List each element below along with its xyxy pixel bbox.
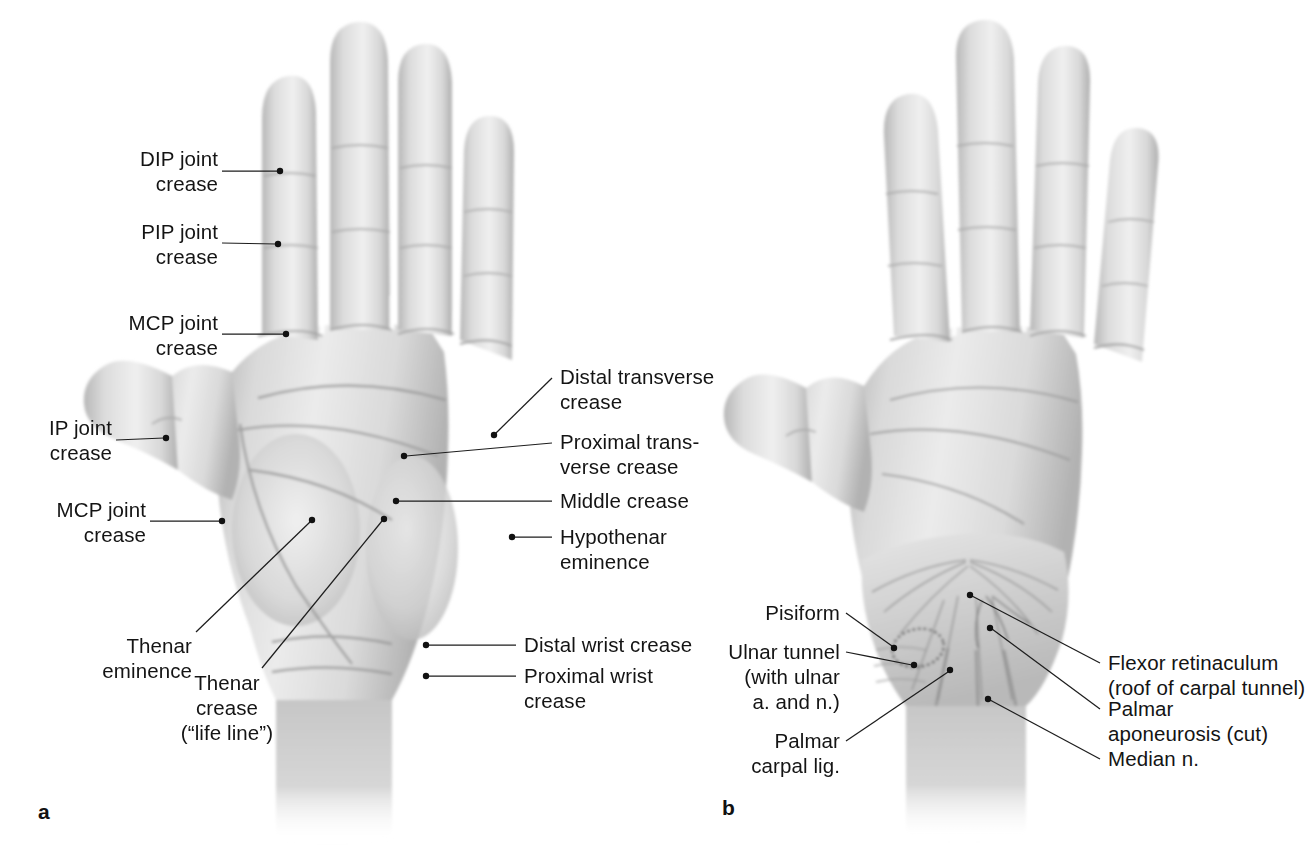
label-pisiform: Pisiform — [640, 600, 840, 625]
label-mcp-joint-crease-thumb: MCP joint crease — [0, 497, 146, 547]
label-proximal-transverse-crease: Proximal trans- verse crease — [560, 429, 780, 479]
label-ulnar-tunnel: Ulnar tunnel (with ulnar a. and n.) — [620, 639, 840, 714]
label-distal-transverse-crease: Distal transverse crease — [560, 364, 780, 414]
label-palmar-carpal-lig: Palmar carpal lig. — [640, 728, 840, 778]
label-median-nerve: Median n. — [1108, 746, 1315, 771]
label-middle-crease: Middle crease — [560, 488, 780, 513]
panel-b-hand — [724, 20, 1159, 841]
label-ip-joint-crease: IP joint crease — [0, 415, 112, 465]
label-hypothenar-eminence: Hypothenar eminence — [560, 524, 780, 574]
panel-letter-b: b — [722, 796, 735, 820]
label-flexor-retinaculum: Flexor retinaculum (roof of carpal tunne… — [1108, 650, 1315, 700]
panel-letter-a: a — [38, 800, 50, 824]
label-palmar-aponeurosis: Palmar aponeurosis (cut) — [1108, 696, 1315, 746]
label-pip-joint-crease: PIP joint crease — [20, 219, 218, 269]
label-mcp-joint-crease: MCP joint crease — [20, 310, 218, 360]
figure-hand-palm-anatomy: DIP joint crease PIP joint crease MCP jo… — [0, 0, 1315, 863]
label-dip-joint-crease: DIP joint crease — [20, 146, 218, 196]
label-thenar-crease: Thenar crease (“life line”) — [142, 670, 312, 745]
wrist-dissection — [862, 533, 1069, 706]
